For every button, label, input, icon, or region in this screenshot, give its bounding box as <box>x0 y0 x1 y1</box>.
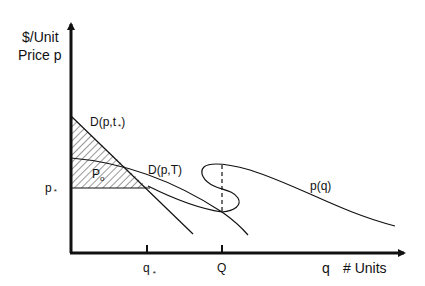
y-tick-label-p-star: p* <box>45 181 57 196</box>
demand-t-star-label-main: D(p,t <box>90 115 117 129</box>
x-tick-q-sub: * <box>153 269 156 278</box>
x-axis-label: # Units <box>343 260 387 276</box>
y-tick-main: p <box>45 181 52 195</box>
demand-t-star-close: ) <box>121 115 125 129</box>
lower-connecting-curve <box>148 186 222 212</box>
region-label-main: P <box>92 167 100 181</box>
x-axis-var: q <box>322 260 330 276</box>
price-quantity-diagram: $/Unit Price p q # Units D(p,t*) D(p,T) … <box>0 0 425 286</box>
price-curve-p-of-q <box>202 164 395 226</box>
y-tick-sub: * <box>54 187 57 196</box>
y-axis-label-line2: Price p <box>18 47 62 63</box>
demand-T-label: D(p,T) <box>148 163 182 177</box>
y-axis-label-line1: $/Unit <box>22 29 59 45</box>
region-label-sub: o <box>100 174 105 183</box>
demand-t-star-label: D(p,t*) <box>90 115 125 131</box>
x-tick-label-q-star: q* <box>143 261 156 278</box>
p-of-q-label: p(q) <box>310 179 331 193</box>
x-tick-q-main: q <box>143 261 150 275</box>
x-tick-label-Q: Q <box>217 261 226 275</box>
